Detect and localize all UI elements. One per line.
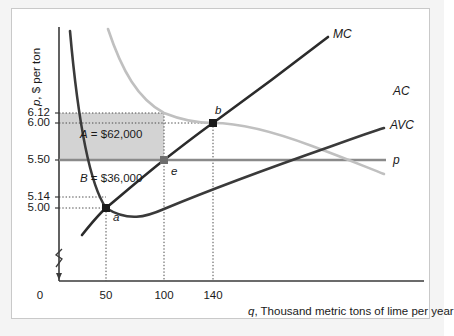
x-tick-label-100: 100 <box>147 290 181 302</box>
x-tick-label-140: 140 <box>196 290 230 302</box>
area-label-a-symbol: A <box>80 128 88 140</box>
point-marker-b <box>209 119 217 127</box>
x-tick-label-50: 50 <box>89 290 123 302</box>
curve-label-mc: MC <box>333 28 352 40</box>
chart-frame: p, $ per ton q, Thousand metric tons of … <box>11 8 430 319</box>
area-label-b: B = $36,000 <box>80 173 142 185</box>
point-label-e: e <box>171 166 177 178</box>
x-tick-label-0: 0 <box>23 290 57 302</box>
area-label-b-value: = $36,000 <box>88 172 143 184</box>
point-marker-e <box>160 156 168 164</box>
y-tick-label-550: 5.50 <box>16 154 50 166</box>
point-label-b: b <box>215 105 221 117</box>
x-axis-title: q, Thousand metric tons of lime per year <box>248 305 454 317</box>
area-label-a: A = $62,000 <box>80 129 142 141</box>
curve-label-p: p <box>393 154 400 166</box>
y-axis-title-units: , $ per ton <box>30 48 42 100</box>
cost-curves-plot <box>12 9 429 318</box>
y-tick-label-600: 6.00 <box>16 117 50 129</box>
y-tick-label-500: 5.00 <box>16 202 50 214</box>
area-label-a-value: = $62,000 <box>88 128 143 140</box>
curve-label-avc: AVC <box>390 119 414 131</box>
curve-label-ac: AC <box>393 85 410 97</box>
point-marker-a <box>102 204 110 212</box>
x-axis-title-units: , Thousand metric tons of lime per year <box>254 305 453 317</box>
area-label-b-symbol: B <box>80 172 88 184</box>
y-axis-arrow-icon <box>56 273 62 280</box>
point-label-a: a <box>113 212 119 224</box>
